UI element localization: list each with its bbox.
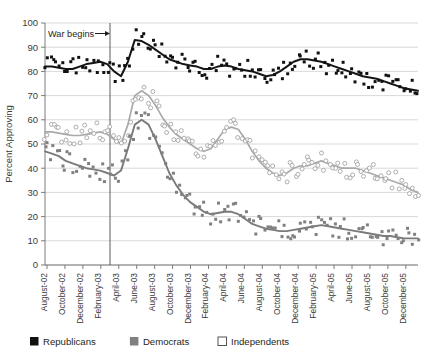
data-point <box>303 60 306 63</box>
data-point <box>160 43 163 46</box>
data-point <box>277 67 280 70</box>
data-point <box>208 67 211 70</box>
data-point <box>222 129 226 133</box>
data-point <box>293 65 296 68</box>
data-point <box>169 122 173 126</box>
data-point <box>101 162 104 165</box>
data-point <box>394 170 398 174</box>
data-point <box>171 56 174 59</box>
data-point <box>71 171 74 174</box>
data-point <box>387 171 391 175</box>
data-point <box>112 134 116 138</box>
data-point <box>404 183 408 187</box>
data-point <box>179 129 183 133</box>
data-point <box>312 67 315 70</box>
data-point <box>161 151 164 154</box>
x-tick-label: August-05 <box>362 273 372 312</box>
data-point <box>114 177 117 180</box>
data-point <box>289 62 292 65</box>
data-point <box>356 163 360 167</box>
data-point <box>417 194 421 198</box>
data-point <box>211 63 214 66</box>
data-point <box>400 178 404 182</box>
x-tick-label: June-05 <box>344 273 354 304</box>
data-point <box>298 230 301 233</box>
data-point <box>271 164 275 168</box>
data-point <box>403 186 407 190</box>
data-point <box>409 90 412 93</box>
data-point <box>391 80 394 83</box>
data-point <box>360 72 363 75</box>
data-point <box>84 66 87 69</box>
data-point <box>249 75 252 78</box>
data-point <box>142 85 146 89</box>
data-point <box>103 180 106 183</box>
data-point <box>208 144 212 148</box>
data-point <box>217 202 220 205</box>
data-point <box>115 140 119 144</box>
data-point <box>45 145 48 148</box>
data-point <box>123 64 126 67</box>
data-point <box>87 162 90 165</box>
data-point <box>165 61 168 64</box>
data-point <box>152 39 155 42</box>
data-point <box>250 156 254 160</box>
data-point <box>362 83 365 86</box>
data-point <box>81 66 84 69</box>
data-point <box>225 62 228 65</box>
data-point <box>111 163 114 166</box>
data-point <box>214 218 217 221</box>
data-point <box>327 64 330 67</box>
data-point <box>365 72 368 75</box>
x-tick-label: April-04 <box>218 273 228 302</box>
data-point <box>86 58 89 61</box>
data-point <box>140 35 143 38</box>
y-tick-label: 70 <box>27 90 38 101</box>
data-point <box>147 101 151 105</box>
data-point <box>339 225 342 228</box>
legend-label-democrats: Democrats <box>143 336 190 347</box>
data-point <box>402 239 405 242</box>
legend-swatch-democrats <box>130 337 139 346</box>
data-point <box>109 173 112 176</box>
data-point <box>347 232 350 235</box>
data-point <box>97 59 100 62</box>
data-point <box>77 56 80 59</box>
data-point <box>66 150 69 153</box>
data-point <box>199 147 203 151</box>
data-point <box>65 130 69 134</box>
data-point <box>371 86 374 89</box>
data-point <box>404 87 407 90</box>
data-point <box>385 74 388 77</box>
data-point <box>154 43 157 46</box>
data-point <box>121 160 124 163</box>
data-point <box>106 129 110 133</box>
data-point <box>54 60 57 63</box>
data-point <box>380 80 383 83</box>
data-point <box>251 68 254 71</box>
data-point <box>315 233 318 236</box>
data-point <box>397 187 401 191</box>
data-point <box>296 172 300 176</box>
data-point <box>319 65 322 68</box>
x-tick-label: October-05 <box>380 273 390 315</box>
data-point <box>201 74 204 77</box>
data-point <box>238 63 241 66</box>
data-point <box>78 141 82 145</box>
data-point <box>149 48 152 51</box>
data-point <box>135 28 138 31</box>
data-point <box>143 112 146 115</box>
data-point <box>390 186 394 190</box>
data-point <box>407 231 410 234</box>
data-point <box>266 81 269 84</box>
data-point <box>72 142 76 146</box>
legend-swatch-republicans <box>30 337 39 346</box>
data-point <box>271 226 274 229</box>
data-point <box>291 68 294 71</box>
data-point <box>46 56 49 59</box>
data-point <box>317 52 320 55</box>
data-point <box>182 136 186 140</box>
data-point <box>92 166 95 169</box>
data-point <box>58 65 61 68</box>
data-point <box>290 163 294 167</box>
